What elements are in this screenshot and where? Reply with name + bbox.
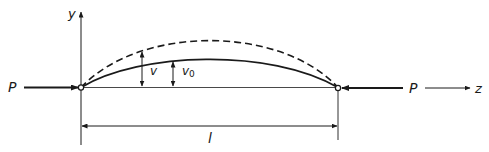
y-axis-label: y xyxy=(67,6,76,21)
deflected-shape-curve xyxy=(81,41,338,88)
left-pin-support xyxy=(78,85,83,90)
column-diagram: y v v0 P P z l xyxy=(0,0,489,152)
initial-deflection-v0-label: v0 xyxy=(182,64,195,79)
left-load-label: P xyxy=(8,79,17,95)
z-axis-label: z xyxy=(474,81,483,96)
right-pin-support xyxy=(335,85,340,90)
deflection-v-label: v xyxy=(150,64,158,78)
right-load-label: P xyxy=(409,80,418,96)
initial-shape-curve xyxy=(81,59,338,87)
v0-subscript: 0 xyxy=(189,69,195,79)
length-label: l xyxy=(208,130,212,146)
